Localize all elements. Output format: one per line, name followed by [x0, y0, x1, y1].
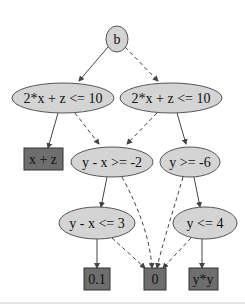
- edge-r1-m2: [127, 113, 157, 144]
- label-r2: y >= -6: [169, 155, 210, 170]
- edge-l1-m2: [75, 113, 99, 144]
- edge-root-r1: [125, 47, 158, 81]
- label-r1: 2*x + z <= 10: [132, 91, 211, 106]
- edge-root-l1: [79, 47, 108, 81]
- label-l1: 2*x + z <= 10: [24, 91, 103, 106]
- edge-r1-r2: [177, 113, 186, 144]
- decision-diagram: b 2*x + z <= 10 2*x + z <= 10 x + z y - …: [0, 0, 245, 307]
- edge-m2-m3: [101, 177, 107, 207]
- label-m2: y - x >= -2: [82, 155, 142, 170]
- edge-r3-leaf0: [163, 238, 191, 268]
- label-r3: y <= 4: [187, 216, 224, 231]
- label-leaf-01: 0.1: [88, 272, 106, 287]
- edge-m3-leaf0: [112, 238, 145, 268]
- label-root: b: [114, 32, 121, 47]
- label-m3: y - x <= 3: [69, 216, 124, 231]
- edge-r2-r3: [194, 177, 200, 207]
- label-leaf-0: 0: [152, 272, 159, 287]
- edge-l1-leafxz: [48, 113, 58, 148]
- bottom-divider: [0, 302, 245, 304]
- label-leaf-yy: y*y: [193, 272, 214, 287]
- label-leaf-xz: x + z: [29, 152, 57, 167]
